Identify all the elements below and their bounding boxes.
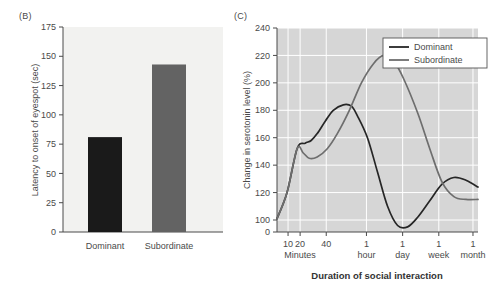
legend-label-dominant: Dominant	[414, 42, 453, 52]
line-y-tick-label: 100	[255, 215, 270, 225]
line-y-tick-label: 240	[255, 23, 270, 33]
line-y-tick-label: 120	[255, 188, 270, 198]
line-y-tick-label: 200	[255, 78, 270, 88]
line-y-tick-label: 0	[265, 227, 270, 237]
line-x-tick-sublabel: hour	[357, 250, 375, 260]
line-x-tick-label: 1	[470, 239, 475, 249]
line-y-axis-title: Change in serotonin level (%)	[242, 71, 252, 189]
line-x-tick-label: 1	[400, 239, 405, 249]
panel-c-chart: 0100120140160180200220240 1020Minutes401…	[0, 0, 501, 290]
line-x-tick-sublabel: month	[460, 250, 485, 260]
line-y-axis-ticks: 0100120140160180200220240	[255, 23, 277, 237]
line-y-tick-label: 220	[255, 51, 270, 61]
line-x-tick-label: 1	[436, 239, 441, 249]
line-x-tick-sublabel: week	[427, 250, 450, 260]
line-x-axis-ticks: 1020Minutes401hour1day1week1month	[283, 232, 485, 260]
line-y-tick-label: 140	[255, 160, 270, 170]
line-x-tick-label: 20	[295, 239, 305, 249]
line-x-tick-label: 40	[321, 239, 331, 249]
legend-label-subordinate: Subordinate	[414, 55, 463, 65]
line-x-tick-sublabel: day	[395, 250, 410, 260]
chart-legend: DominantSubordinate	[383, 38, 487, 68]
line-y-tick-label: 180	[255, 105, 270, 115]
figure-container: (B) (C) 0255075100125150175 DominantSubo…	[0, 0, 501, 290]
line-x-axis-title: Duration of social interaction	[311, 270, 443, 281]
line-x-tick-label: 1	[364, 239, 369, 249]
line-x-tick-sublabel: Minutes	[284, 250, 316, 260]
line-x-tick-label: 10	[283, 239, 293, 249]
line-y-tick-label: 160	[255, 133, 270, 143]
